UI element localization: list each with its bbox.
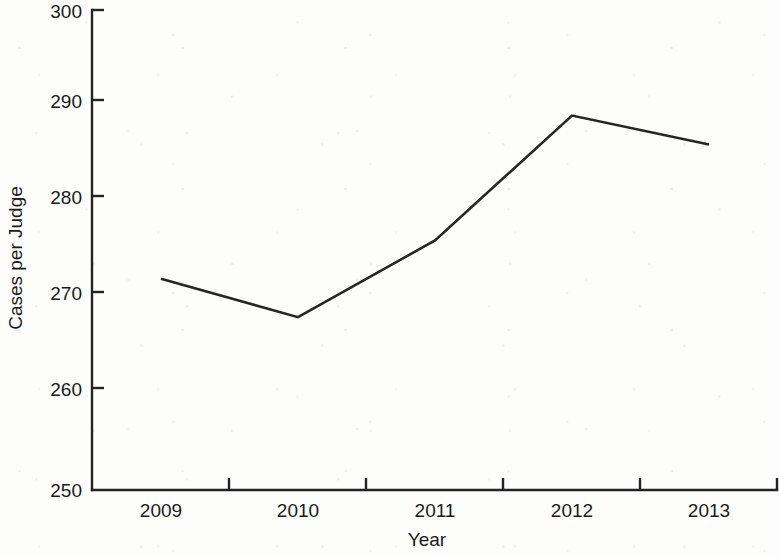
cases-per-judge-line <box>161 116 709 318</box>
line-chart-plot: 300 290 280 270 260 250 <box>0 0 779 557</box>
y-tick-label-270: 270 <box>50 283 82 304</box>
axis-spines <box>92 10 777 490</box>
y-tick-label-280: 280 <box>50 187 82 208</box>
x-tick-label-2013: 2013 <box>688 500 730 521</box>
y-tick-label-250: 250 <box>50 480 82 501</box>
x-axis-tick-marks <box>229 478 640 490</box>
y-axis-title: Cases per Judge <box>5 186 26 330</box>
x-axis-title: Year <box>408 529 447 550</box>
chart-figure: 300 290 280 270 260 250 <box>0 0 779 557</box>
y-axis-tick-labels: 300 290 280 270 260 250 <box>50 1 82 501</box>
y-axis-tick-marks <box>92 100 104 388</box>
x-axis-tick-labels: 2009 2010 2011 2012 2013 <box>140 500 730 521</box>
y-tick-label-300: 300 <box>50 1 82 22</box>
y-tick-label-290: 290 <box>50 91 82 112</box>
x-tick-label-2009: 2009 <box>140 500 182 521</box>
x-tick-label-2010: 2010 <box>277 500 319 521</box>
x-tick-label-2011: 2011 <box>415 500 456 521</box>
y-tick-label-260: 260 <box>50 379 82 400</box>
x-tick-label-2012: 2012 <box>551 500 593 521</box>
